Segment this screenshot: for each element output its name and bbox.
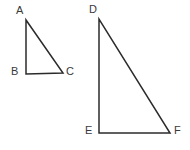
vertex-label-b: B xyxy=(11,66,18,77)
vertex-label-a: A xyxy=(16,5,23,16)
triangle-abc xyxy=(26,20,63,74)
vertex-label-f: F xyxy=(174,125,181,136)
vertex-label-e: E xyxy=(85,125,92,136)
geometry-figure: A B C D E F xyxy=(0,0,190,150)
vertex-label-c: C xyxy=(66,66,74,77)
triangles-canvas xyxy=(0,0,190,150)
vertex-label-d: D xyxy=(89,4,97,15)
triangle-def xyxy=(99,19,170,133)
